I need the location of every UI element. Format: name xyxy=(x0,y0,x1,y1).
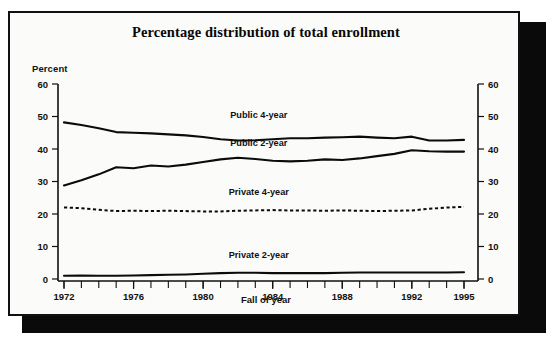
figure-root: Percentage distribution of total enrollm… xyxy=(0,0,553,343)
series-label-public-2-year: Public 2-year xyxy=(230,138,288,148)
series-line-private-4-year xyxy=(64,207,464,212)
x-axis-tick-label: 1972 xyxy=(53,291,74,302)
plot-area: 0102030405060010203040506019721976198019… xyxy=(10,13,522,318)
y-axis-left-tick-label: 50 xyxy=(37,111,48,122)
series-label-public-4-year: Public 4-year xyxy=(230,110,288,120)
y-axis-left-tick-label: 30 xyxy=(37,176,48,187)
y-axis-right-tick-label: 10 xyxy=(488,241,499,252)
y-axis-left-tick-label: 0 xyxy=(43,274,48,285)
x-axis-tick-label: 1992 xyxy=(401,291,422,302)
y-axis-left-tick-label: 20 xyxy=(37,209,48,220)
series-line-public-2-year xyxy=(64,150,464,185)
x-axis-tick-label: 1984 xyxy=(262,291,284,302)
y-axis-right-tick-label: 20 xyxy=(488,209,499,220)
x-axis-tick-label: 1988 xyxy=(332,291,353,302)
y-axis-right-tick-label: 0 xyxy=(488,274,493,285)
y-axis-left-tick-label: 10 xyxy=(37,241,48,252)
series-label-private-4-year: Private 4-year xyxy=(229,187,290,197)
x-axis-tick-label: 1976 xyxy=(123,291,144,302)
series-label-private-2-year: Private 2-year xyxy=(229,250,290,260)
chart-panel: Percentage distribution of total enrollm… xyxy=(8,11,520,316)
x-axis-tick-label: 1995 xyxy=(453,291,475,302)
series-line-private-2-year xyxy=(64,272,464,276)
y-axis-right-tick-label: 30 xyxy=(488,176,499,187)
y-axis-right-tick-label: 40 xyxy=(488,144,499,155)
x-axis-tick-label: 1980 xyxy=(193,291,214,302)
y-axis-left-tick-label: 40 xyxy=(37,144,48,155)
y-axis-right-tick-label: 60 xyxy=(488,79,499,90)
y-axis-left-tick-label: 60 xyxy=(37,79,48,90)
y-axis-right-tick-label: 50 xyxy=(488,111,499,122)
